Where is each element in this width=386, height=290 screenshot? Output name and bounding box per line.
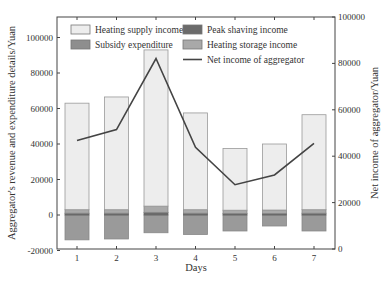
- legend-swatch: [183, 40, 202, 49]
- bar-heating-storage-income: [223, 210, 247, 213]
- y-tick-label: 0: [49, 210, 54, 220]
- bar-subsidy-expenditure: [184, 215, 208, 235]
- y2-tick-label: 60000: [338, 105, 361, 115]
- legend-label: Heating storage income: [207, 40, 297, 50]
- bar-heating-storage-income: [184, 210, 208, 214]
- bar-subsidy-expenditure: [105, 215, 129, 239]
- bar-subsidy-expenditure: [144, 215, 168, 233]
- legend-swatch: [183, 25, 202, 34]
- y-tick-label: 80000: [31, 68, 54, 78]
- x-tick-label: 5: [233, 253, 238, 263]
- x-tick-label: 7: [312, 253, 317, 263]
- y2-tick-label: 80000: [338, 58, 361, 68]
- bar-stack-day-4: [184, 113, 208, 235]
- bar-subsidy-expenditure: [302, 215, 326, 231]
- y-tick-label: 60000: [31, 104, 54, 114]
- y-tick-label: 40000: [31, 139, 54, 149]
- legend-label: Subsidy expenditure: [95, 40, 173, 50]
- legend-item: Net income of aggregator: [183, 55, 305, 65]
- legend-item: Subsidy expenditure: [71, 40, 173, 50]
- legend-swatch: [71, 40, 90, 49]
- bar-heating-supply-income: [302, 115, 326, 210]
- y2-tick-label: 20000: [338, 198, 361, 208]
- bar-subsidy-expenditure: [263, 215, 287, 226]
- bar-heating-supply-income: [223, 148, 247, 210]
- legend-label: Peak shaving income: [207, 25, 288, 35]
- legend-label: Net income of aggregator: [207, 55, 305, 65]
- y2-tick-label: 0: [338, 244, 343, 254]
- bar-series-group: [65, 50, 326, 240]
- legend-label: Heating supply income: [95, 25, 183, 35]
- bar-subsidy-expenditure: [223, 215, 247, 231]
- right-y-axis: 020000400006000080000100000: [332, 12, 366, 254]
- bar-subsidy-expenditure: [65, 215, 89, 240]
- bar-heating-supply-income: [65, 103, 89, 210]
- bar-stack-day-5: [223, 148, 247, 231]
- legend: Heating supply incomePeak shaving income…: [71, 25, 305, 65]
- chart-container: 1234567 -2000002000040000600008000010000…: [0, 0, 386, 290]
- x-tick-label: 1: [75, 253, 80, 263]
- y2-tick-label: 40000: [338, 151, 361, 161]
- x-tick-label: 3: [154, 253, 159, 263]
- legend-item: Heating storage income: [183, 40, 297, 50]
- bar-heating-storage-income: [65, 210, 89, 214]
- stacked-bar-line-chart: 1234567 -2000002000040000600008000010000…: [0, 0, 386, 290]
- y2-tick-label: 100000: [338, 12, 366, 22]
- bar-stack-day-2: [105, 97, 129, 239]
- legend-item: Peak shaving income: [183, 25, 288, 35]
- bar-heating-storage-income: [105, 210, 129, 214]
- bar-stack-day-7: [302, 115, 326, 231]
- bar-heating-storage-income: [302, 210, 326, 214]
- bar-heating-storage-income: [144, 206, 168, 212]
- y-tick-label: 100000: [26, 33, 54, 43]
- x-tick-label: 6: [272, 253, 277, 263]
- y-tick-label: -20000: [28, 246, 54, 256]
- left-y-axis-title: Aggregator's revenue and expenditure det…: [6, 25, 17, 240]
- x-tick-label: 2: [114, 253, 119, 263]
- legend-item: Heating supply income: [71, 25, 183, 35]
- bar-stack-day-6: [263, 144, 287, 226]
- bar-stack-day-1: [65, 103, 89, 240]
- legend-swatch: [71, 25, 90, 34]
- right-y-axis-title: Net income of aggregator/Yuan: [369, 66, 380, 199]
- left-y-axis: -20000020000400006000080000100000: [26, 33, 60, 256]
- bar-heating-storage-income: [263, 210, 287, 213]
- y-tick-label: 20000: [31, 175, 54, 185]
- x-axis-title: Days: [185, 262, 207, 273]
